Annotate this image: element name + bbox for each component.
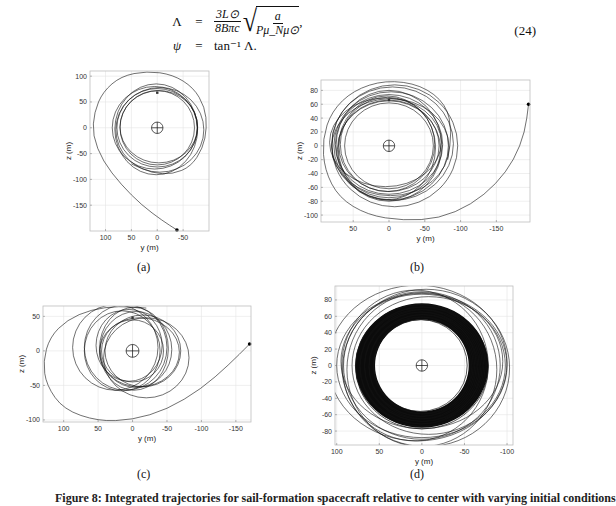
x-tick-label: 0	[131, 425, 135, 432]
y-tick-label: 20	[310, 128, 318, 135]
grid-lines	[90, 71, 209, 231]
x-tick-label: 50	[127, 234, 135, 241]
x-tick-label: 100	[100, 234, 112, 241]
trajectory-plot-c: 100500-50-100-150500-50-100y (m)z (m)	[43, 306, 251, 422]
fraction-inside-sqrt: a Pμ_Nμ⊙	[256, 10, 299, 37]
equation-number: (24)	[514, 23, 536, 39]
x-tick-label: 100	[331, 448, 343, 455]
sqrt-numerator: a	[273, 10, 283, 24]
x-axis-label: y (m)	[140, 243, 159, 252]
y-tick-label: -100	[26, 416, 40, 423]
plot-canvas-a: 100500-50100500-50-100-150y (m)z (m)	[90, 71, 209, 231]
y-tick-label: 0	[36, 347, 40, 354]
sqrt-denominator: Pμ_Nμ⊙	[256, 24, 299, 37]
y-tick-label: 100	[75, 73, 87, 80]
y-tick-label: -40	[308, 170, 318, 177]
target-crosshair-icon	[126, 344, 139, 357]
trajectory-plot-b: 500-50-100-150806040200-20-40-60-80-100y…	[321, 80, 530, 222]
y-axis-label: z (m)	[309, 356, 318, 375]
equals-sign: =	[184, 38, 214, 54]
trajectory-plot-d: 100500-50-100806040200-20-40-60-80y (m)z…	[335, 286, 513, 445]
x-tick-label: 50	[349, 225, 357, 232]
equals-sign: =	[184, 14, 214, 30]
orbit-ring	[84, 305, 167, 391]
y-tick-label: 20	[324, 346, 332, 353]
y-tick-label: 60	[310, 101, 318, 108]
end-point-marker	[156, 91, 158, 93]
y-tick-label: 60	[324, 313, 332, 320]
end-point-marker	[131, 317, 133, 319]
y-tick-label: -20	[322, 378, 332, 385]
trajectory-plot-a: 100500-50100500-50-100-150y (m)z (m)	[90, 71, 209, 231]
y-tick-label: -50	[30, 382, 40, 389]
x-tick-label: 50	[94, 425, 102, 432]
x-tick-label: -100	[454, 225, 468, 232]
y-tick-label: -150	[73, 202, 87, 209]
trailing-comma: ,	[299, 14, 302, 30]
plot-canvas-b: 500-50-100-150806040200-20-40-60-80-100y…	[321, 80, 530, 222]
x-tick-label: -50	[459, 448, 469, 455]
x-tick-label: -150	[489, 225, 503, 232]
y-tick-label: -20	[308, 156, 318, 163]
target-crosshair-icon	[383, 140, 394, 151]
y-tick-label: 50	[32, 313, 40, 320]
x-axis-label: y (m)	[138, 434, 157, 443]
square-root: √ a Pμ_Nμ⊙	[243, 6, 300, 37]
y-tick-label: 40	[324, 329, 332, 336]
y-tick-label: 0	[83, 124, 87, 131]
y-axis-label: z (m)	[64, 142, 73, 161]
y-tick-label: 80	[324, 296, 332, 303]
equation-lhs-psi: ψ	[170, 38, 184, 54]
fraction-denominator: 8Bπc	[215, 22, 240, 35]
target-crosshair-icon	[416, 360, 427, 371]
y-tick-label: -80	[322, 428, 332, 435]
y-tick-label: -50	[77, 150, 87, 157]
end-point-marker	[388, 99, 390, 101]
x-tick-label: 0	[420, 448, 424, 455]
equation-24: Λ = 3L⊙ 8Bπc √ a Pμ_Nμ⊙ , ψ = tan⁻¹ Λ. (…	[170, 4, 542, 56]
axes-frame	[90, 71, 209, 231]
x-tick-label: -150	[229, 425, 243, 432]
y-tick-label: -40	[322, 395, 332, 402]
approach-trajectory	[93, 72, 206, 230]
x-tick-label: -100	[194, 425, 208, 432]
x-tick-label: 50	[375, 448, 383, 455]
y-tick-label: 80	[310, 87, 318, 94]
y-tick-label: -100	[304, 212, 318, 219]
plot-canvas-c: 100500-50-100-150500-50-100y (m)z (m)	[43, 306, 251, 422]
x-tick-label: -100	[500, 448, 514, 455]
equation-line-psi: ψ = tan⁻¹ Λ.	[170, 38, 257, 54]
x-axis-label: y (m)	[416, 234, 435, 243]
approach-trajectory	[44, 307, 249, 421]
subfigure-label-c: (c)	[137, 467, 150, 482]
y-tick-label: -60	[308, 184, 318, 191]
subfigure-label-a: (a)	[137, 260, 150, 275]
fraction-numerator: 3L⊙	[214, 8, 241, 22]
equation-rhs-psi: tan⁻¹ Λ.	[214, 38, 257, 54]
orbit-ring	[116, 88, 204, 173]
plot-canvas-d: 100500-50-100806040200-20-40-60-80y (m)z…	[335, 286, 513, 445]
figure-caption: Figure 8: Integrated trajectories for sa…	[55, 491, 616, 506]
y-axis-label: z (m)	[17, 355, 26, 374]
y-tick-label: 40	[310, 115, 318, 122]
y-tick-label: -80	[308, 198, 318, 205]
x-tick-label: 0	[387, 225, 391, 232]
x-tick-label: -50	[420, 225, 430, 232]
x-tick-label: 100	[58, 425, 70, 432]
subfigure-label-d: (d)	[410, 467, 424, 482]
x-tick-label: 0	[155, 234, 159, 241]
target-crosshair-icon	[152, 122, 163, 133]
orbit-ring	[340, 97, 434, 191]
y-tick-label: -60	[322, 411, 332, 418]
equation-lhs-lambda: Λ	[170, 14, 184, 30]
radical-sign-icon: √	[243, 7, 257, 37]
equation-line-lambda: Λ = 3L⊙ 8Bπc √ a Pμ_Nμ⊙ ,	[170, 6, 303, 37]
x-tick-label: -50	[178, 234, 188, 241]
subfigure-label-b: (b)	[410, 260, 424, 275]
y-axis-label: z (m)	[295, 142, 304, 161]
y-tick-label: 0	[328, 362, 332, 369]
y-tick-label: 50	[79, 98, 87, 105]
x-tick-label: -50	[162, 425, 172, 432]
fraction-luminosity: 3L⊙ 8Bπc	[214, 8, 241, 35]
y-tick-label: 0	[314, 142, 318, 149]
